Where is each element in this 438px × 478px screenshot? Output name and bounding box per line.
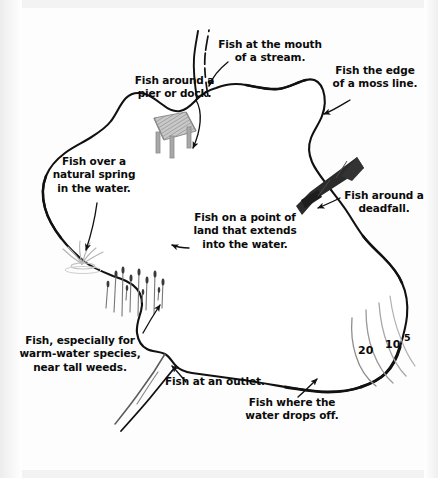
depth-label-5: 5 (404, 332, 411, 343)
caption-point-of-land: Fish on a point of land that extends int… (190, 211, 300, 251)
caption-water-drops-off: Fish where the water drops off. (236, 396, 348, 423)
leader-moss-line (324, 100, 350, 114)
caption-mouth-of-stream: Fish at the mouth of a stream. (216, 38, 324, 65)
caption-outlet: Fish at an outlet. (165, 375, 275, 388)
caption-tall-weeds: Fish, especially for warm-water species,… (12, 334, 148, 374)
caption-pier-or-dock: Fish around a pier or dock. (122, 74, 227, 101)
depth-label-10: 10 (385, 338, 400, 351)
caption-deadfall: Fish around a deadfall. (338, 189, 430, 216)
caption-natural-spring: Fish over a natural spring in the water. (44, 155, 144, 195)
diagram-page: Fish at the mouth of a stream. Fish the … (0, 0, 438, 478)
depth-label-20: 20 (358, 344, 373, 357)
caption-moss-line: Fish the edge of a moss line. (325, 64, 425, 91)
